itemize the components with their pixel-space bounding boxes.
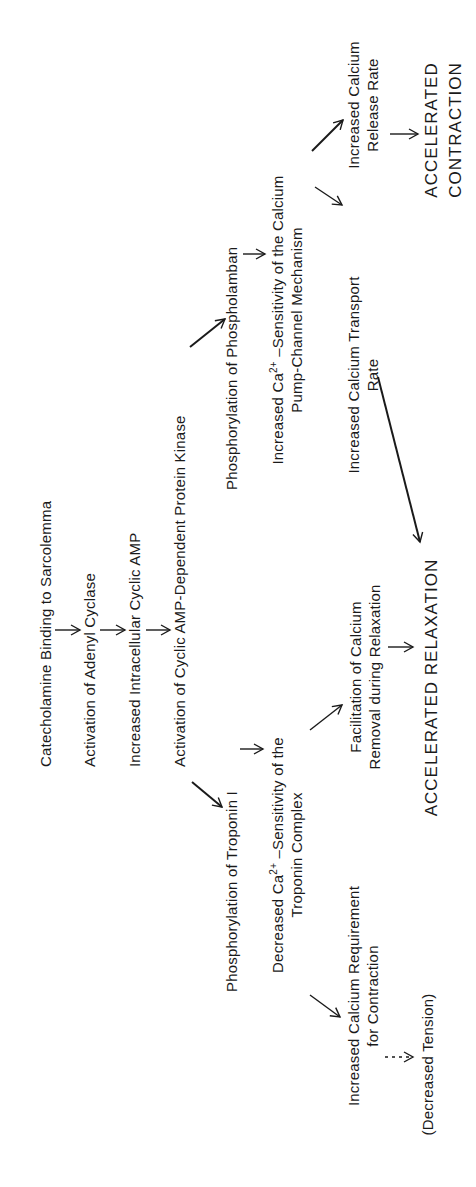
arrow-transport-rate-to-relaxation <box>378 377 420 542</box>
node-increased-sensitivity: Increased Ca2+ –Sensitivity of the Calci… <box>268 150 306 490</box>
outcome-accelerated-relaxation: ACCELERATED RELAXATION <box>420 555 444 820</box>
node-facilitation-removal: Facilitation of Calcium Removal during R… <box>346 567 384 787</box>
node-decreased-tension: (Decreased Tension) <box>418 982 437 1147</box>
node-label-line1: Facilitation of Calcium <box>346 567 365 787</box>
node-catecholamine-binding: Catecholamine Binding to Sarcolemma <box>36 501 55 767</box>
node-label: Catecholamine Binding to Sarcolemma <box>36 501 55 767</box>
arrow-increased-to-transport <box>315 187 342 205</box>
node-label: Activation of Cyclic AMP-Dependent Prote… <box>170 415 189 767</box>
outcome-accelerated-contraction: ACCELERATED CONTRACTION <box>420 40 468 220</box>
node-adenyl-cyclase: Activation of Adenyl Cyclase <box>80 573 99 767</box>
node-label-line2: Pump-Channel Mechanism <box>287 150 306 490</box>
arrow-kinase-to-troponin <box>192 782 222 807</box>
arrow-decreased-to-facilitation <box>310 705 342 730</box>
node-label: Increased Intracellular Cyclic AMP <box>125 533 144 767</box>
node-label: Activation of Adenyl Cyclase <box>80 573 99 767</box>
node-label-line1: Increased Ca2+ –Sensitivity of the Calci… <box>268 150 287 490</box>
node-calcium-requirement: Increased Calcium Requirement for Contra… <box>344 871 382 1121</box>
arrow-decreased-to-requirement <box>310 995 340 1017</box>
node-calcium-transport-rate: Increased Calcium Transport Rate <box>344 260 382 490</box>
outcome-label-line1: ACCELERATED <box>420 40 444 220</box>
arrow-to-release-rate <box>312 120 343 151</box>
node-label-line1: Increased Calcium Transport <box>344 260 363 490</box>
diagram-canvas: Catecholamine Binding to Sarcolemma Acti… <box>0 0 476 1187</box>
node-label-line2: Rate <box>363 260 382 490</box>
node-label-line2: Release Rate <box>363 35 382 175</box>
node-label-line1: Decreased Ca2+ –Sensitivity of the <box>268 715 287 995</box>
node-label-line2: Removal during Relaxation <box>365 567 384 787</box>
node-label-line2: for Contraction <box>363 871 382 1121</box>
arrow-kinase-to-phospholamban <box>190 319 225 347</box>
outcome-label-line2: CONTRACTION <box>444 40 468 220</box>
node-label-line1: Increased Calcium Requirement <box>344 871 363 1121</box>
node-protein-kinase: Activation of Cyclic AMP-Dependent Prote… <box>170 415 189 767</box>
arrow-layer <box>0 0 476 1187</box>
node-calcium-release-rate: Increased Calcium Release Rate <box>344 35 382 175</box>
node-phospholamban-phosphorylation: Phosphorylation of Phospholamban <box>222 247 241 490</box>
node-troponin-phosphorylation: Phosphorylation of Troponin I <box>222 791 241 992</box>
node-label: Phosphorylation of Troponin I <box>222 791 241 992</box>
node-label-line1: Increased Calcium <box>344 35 363 175</box>
node-label-line2: Troponin Complex <box>287 715 306 995</box>
node-label: (Decreased Tension) <box>418 982 437 1147</box>
node-decreased-sensitivity: Decreased Ca2+ –Sensitivity of the Tropo… <box>268 715 306 995</box>
node-label: Phosphorylation of Phospholamban <box>222 247 241 490</box>
node-cyclic-amp: Increased Intracellular Cyclic AMP <box>125 533 144 767</box>
outcome-label: ACCELERATED RELAXATION <box>422 559 441 817</box>
